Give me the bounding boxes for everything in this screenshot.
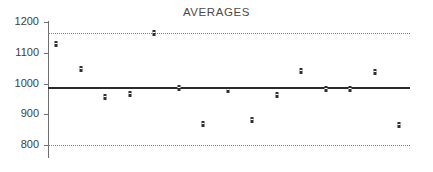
- y-axis-tick-label: 1000: [0, 78, 39, 89]
- y-axis-tick-label: 900: [0, 108, 39, 119]
- data-point: [226, 87, 229, 93]
- data-point: [324, 86, 327, 92]
- data-point: [202, 121, 205, 127]
- data-point: [275, 92, 278, 98]
- y-axis-tick: [44, 53, 48, 54]
- upper-control-limit: [48, 33, 410, 34]
- data-point: [128, 91, 131, 97]
- data-point: [251, 117, 254, 123]
- center-line: [48, 87, 410, 89]
- data-point: [55, 41, 58, 47]
- data-point: [398, 122, 401, 128]
- y-axis-line: [48, 21, 49, 158]
- data-point: [300, 68, 303, 74]
- data-point: [373, 69, 376, 75]
- data-point: [349, 86, 352, 92]
- y-axis-tick-label: 1200: [0, 16, 39, 27]
- y-axis-tick: [44, 22, 48, 23]
- data-point: [104, 94, 107, 100]
- lower-control-limit: [48, 145, 410, 146]
- y-axis-tick-label: 1100: [0, 47, 39, 58]
- y-axis-tick: [44, 84, 48, 85]
- y-axis-tick-label: 800: [0, 139, 39, 150]
- data-point: [153, 30, 156, 36]
- y-axis-tick: [44, 114, 48, 115]
- data-point: [177, 85, 180, 91]
- data-point: [79, 66, 82, 72]
- plot-area: 800900100011001200: [0, 0, 433, 172]
- chart-screenshot: AVERAGES 800900100011001200: [0, 0, 433, 172]
